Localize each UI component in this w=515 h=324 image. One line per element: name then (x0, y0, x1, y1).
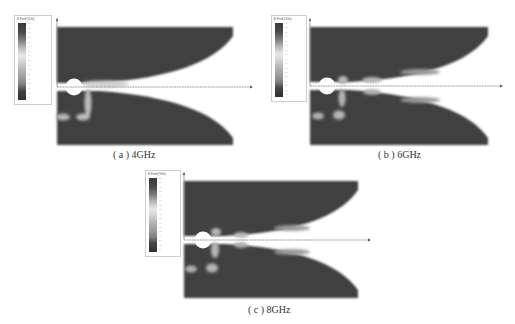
caption-a: ( a ) 4GHz (113, 149, 155, 160)
tick-label: — (285, 23, 304, 26)
caption-c: ( c ) 8GHz (248, 304, 290, 315)
tick-label: — (28, 79, 49, 82)
tick-label: — (285, 54, 304, 57)
tick-label: — (159, 231, 178, 234)
legend-title-c: E-Field [V/m] (148, 172, 165, 176)
tick-label: — (285, 68, 304, 71)
tick-label: — (285, 94, 304, 97)
tick-label: — (285, 85, 304, 88)
tick-label: — (159, 218, 178, 221)
tick-label: — (28, 28, 49, 31)
tick-label: — (285, 50, 304, 53)
tick-label: — (159, 191, 178, 194)
plot-a (56, 18, 253, 146)
tick-label: — (28, 88, 49, 91)
tick-label: — (285, 32, 304, 35)
tick-label: — (285, 90, 304, 93)
tick-label: — (159, 227, 178, 230)
tick-label: — (159, 209, 178, 212)
tick-label: — (159, 187, 178, 190)
tick-label: — (285, 63, 304, 66)
caption-b: ( b ) 6GHz (378, 149, 421, 160)
field-region-upper-b (310, 27, 488, 82)
tick-label: — (28, 37, 49, 40)
colorbar-legend-c: E-Field [V/m] ————————————————— (145, 170, 181, 257)
tick-label: — (159, 205, 178, 208)
tick-label: — (285, 59, 304, 62)
tick-label: — (285, 81, 304, 84)
tick-label: — (159, 196, 178, 199)
colorbar-legend-a: E-Field [V/m] ————————————————— (14, 15, 52, 105)
tick-label: — (28, 23, 49, 26)
tick-label: — (28, 42, 49, 45)
tick-label: — (285, 27, 304, 30)
tick-label: — (285, 45, 304, 48)
colorbar-b (275, 23, 283, 97)
tick-label: — (159, 200, 178, 203)
tick-label: — (28, 32, 49, 35)
tick-label: — (159, 178, 178, 181)
tick-label: — (28, 51, 49, 54)
tick-label: — (28, 74, 49, 77)
field-plots-canvas (0, 0, 515, 324)
tick-label: — (159, 249, 178, 252)
tick-label: — (159, 182, 178, 185)
tick-label: — (28, 97, 49, 100)
tick-label: — (28, 65, 49, 68)
tick-label: — (28, 46, 49, 49)
tick-label: — (285, 36, 304, 39)
tick-label: — (28, 69, 49, 72)
tick-label: — (159, 245, 178, 248)
legend-ticks-c: ————————————————— (159, 178, 178, 252)
plot-c (183, 172, 371, 299)
legend-ticks-a: ————————————————— (28, 23, 49, 100)
tick-label: — (159, 240, 178, 243)
field-region-upper-c (184, 181, 358, 236)
colorbar-legend-b: E-Field [V/m] ————————————————— (271, 15, 307, 102)
plot-b (309, 18, 503, 146)
tick-label: — (285, 41, 304, 44)
tick-label: — (28, 83, 49, 86)
tick-label: — (159, 214, 178, 217)
legend-title-a: E-Field [V/m] (17, 17, 34, 21)
legend-ticks-b: ————————————————— (285, 23, 304, 97)
tick-label: — (285, 76, 304, 79)
tick-label: — (159, 223, 178, 226)
tick-label: — (28, 55, 49, 58)
tick-label: — (28, 60, 49, 63)
tick-label: — (28, 93, 49, 96)
field-region-upper-a (57, 27, 233, 83)
colorbar-c (149, 178, 157, 252)
tick-label: — (159, 236, 178, 239)
legend-title-b: E-Field [V/m] (274, 17, 291, 21)
tick-label: — (285, 72, 304, 75)
colorbar-a (18, 23, 26, 100)
